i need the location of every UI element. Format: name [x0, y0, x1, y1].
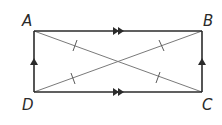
tick-mark-ac-lower — [156, 72, 160, 83]
vertex-label-d: D — [22, 98, 34, 113]
vertex-label-b: B — [203, 14, 213, 29]
single-arrow-icon-cb — [198, 58, 206, 65]
vertex-label-c: C — [202, 98, 212, 113]
double-arrow-icon-dc — [113, 88, 124, 96]
double-arrow-icon-ab — [113, 27, 124, 35]
vertex-label-a: A — [22, 14, 32, 29]
single-arrow-icon-da — [30, 58, 38, 65]
